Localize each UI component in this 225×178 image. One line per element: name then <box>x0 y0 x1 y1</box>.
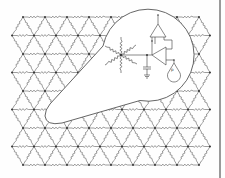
lattice-diagram <box>0 0 225 178</box>
page-border <box>219 0 221 178</box>
probe-label: p <box>171 67 174 72</box>
resistor-network-figure: p <box>0 0 225 178</box>
